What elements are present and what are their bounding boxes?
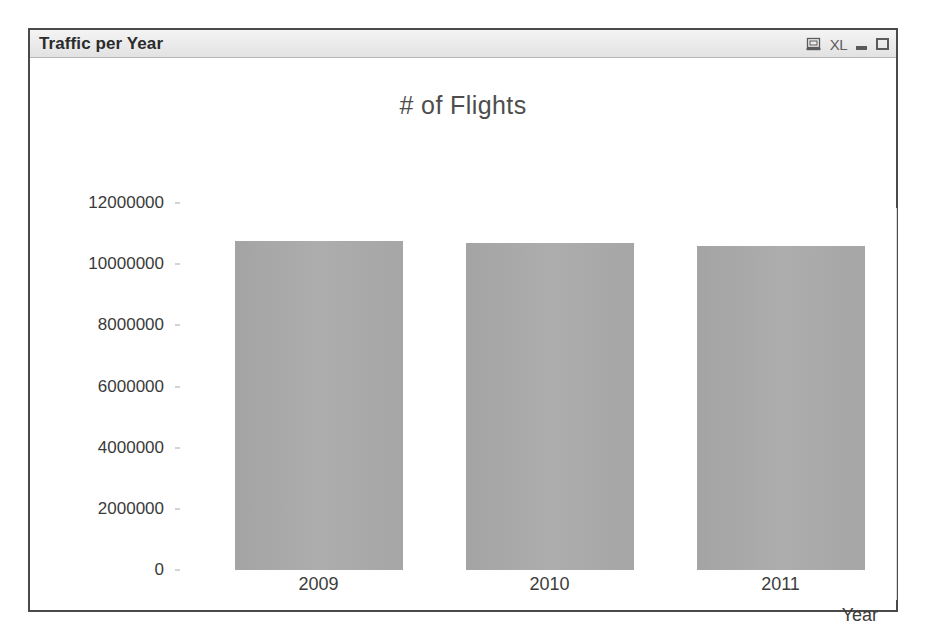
minimize-icon (856, 46, 867, 50)
plot-right-edge (896, 208, 897, 600)
window-title: Traffic per Year (30, 34, 163, 54)
chart-window: Traffic per Year XL (28, 28, 898, 612)
chart-area[interactable]: # of Flights 120000001000000080000006000… (30, 58, 896, 610)
y-axis-tick-label: 4000000 (98, 438, 164, 458)
x-axis-tick-label: 2010 (434, 574, 665, 595)
y-axis-tick-mark (175, 264, 180, 265)
plot-region: 1200000010000000800000060000004000000200… (30, 58, 896, 610)
y-axis-tick-label: 12000000 (88, 193, 164, 213)
minimize-button[interactable] (856, 39, 867, 50)
y-axis-tick-mark (175, 447, 180, 448)
y-axis-tick-label: 6000000 (98, 377, 164, 397)
y-axis-tick-mark (175, 386, 180, 387)
y-axis-tick-label: 8000000 (98, 315, 164, 335)
bar-2011[interactable] (697, 246, 865, 570)
window-title-bar[interactable]: Traffic per Year XL (30, 30, 896, 58)
export-excel-label: XL (830, 37, 847, 52)
screen: Traffic per Year XL (0, 0, 928, 638)
maximize-icon (876, 38, 889, 50)
y-axis-tick-label: 0 (155, 560, 164, 580)
x-axis-tick-label: 2009 (203, 574, 434, 595)
export-excel-icon[interactable]: XL (830, 37, 847, 52)
export-display-icon[interactable] (806, 37, 821, 52)
y-axis-tick-mark (175, 508, 180, 509)
y-axis-tick-mark (175, 325, 180, 326)
x-axis-title: Year (842, 605, 878, 626)
maximize-button[interactable] (876, 38, 889, 50)
y-axis-tick-mark (175, 203, 180, 204)
window-controls: XL (806, 30, 889, 58)
bar-2009[interactable] (235, 241, 403, 570)
bar-2010[interactable] (466, 243, 634, 570)
y-axis-tick-label: 10000000 (88, 254, 164, 274)
x-axis-tick-label: 2011 (665, 574, 896, 595)
y-axis-tick-label: 2000000 (98, 499, 164, 519)
y-axis-tick-mark (175, 570, 180, 571)
